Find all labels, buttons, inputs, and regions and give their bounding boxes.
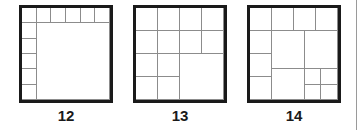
grid-cell bbox=[95, 8, 110, 23]
grid-cell bbox=[158, 77, 180, 100]
figure-label: 12 bbox=[19, 107, 113, 125]
grid-cell bbox=[272, 69, 305, 100]
square-figure-14: 14 bbox=[247, 5, 341, 103]
grid-cell bbox=[316, 8, 338, 31]
dissected-square bbox=[19, 5, 113, 103]
grid-cell bbox=[136, 8, 158, 31]
grid-cell bbox=[22, 85, 37, 100]
grid-cell bbox=[51, 8, 66, 23]
grid-cell bbox=[22, 23, 37, 38]
grid-cell bbox=[180, 31, 202, 54]
grid-cell bbox=[136, 31, 158, 54]
grid-cell bbox=[272, 8, 294, 31]
grid-cell bbox=[136, 54, 158, 77]
grid-cell bbox=[294, 8, 316, 31]
grid-cell bbox=[202, 31, 224, 54]
grid-cell bbox=[37, 8, 52, 23]
square-figure-12: 12 bbox=[19, 5, 113, 103]
grid-cell bbox=[22, 8, 37, 23]
grid-cell bbox=[37, 23, 110, 100]
grid-cell bbox=[180, 8, 202, 31]
grid-cell bbox=[22, 54, 37, 69]
grid-cell bbox=[305, 69, 322, 84]
grid-cell bbox=[22, 39, 37, 54]
grid-cell bbox=[250, 8, 272, 31]
square-figure-13: 13 bbox=[133, 5, 227, 103]
grid-cell bbox=[158, 54, 180, 77]
grid-cell bbox=[305, 85, 322, 100]
grid-cell bbox=[202, 8, 224, 31]
figure-label: 14 bbox=[247, 107, 341, 125]
grid-cell bbox=[272, 31, 305, 69]
grid-cell bbox=[158, 8, 180, 31]
dissected-square bbox=[133, 5, 227, 103]
grid-cell bbox=[321, 69, 338, 84]
grid-cell bbox=[321, 85, 338, 100]
grid-cell bbox=[66, 8, 81, 23]
grid-cell bbox=[250, 54, 272, 77]
figure-label: 13 bbox=[133, 107, 227, 125]
grid-cell bbox=[136, 77, 158, 100]
grid-cell bbox=[81, 8, 96, 23]
grid-cell bbox=[22, 69, 37, 84]
grid-cell bbox=[305, 31, 338, 69]
grid-cell bbox=[250, 77, 272, 100]
grid-cell bbox=[250, 31, 272, 54]
page-edge-divider bbox=[356, 0, 357, 130]
grid-cell bbox=[180, 54, 224, 100]
dissected-square bbox=[247, 5, 341, 103]
grid-cell bbox=[158, 31, 180, 54]
